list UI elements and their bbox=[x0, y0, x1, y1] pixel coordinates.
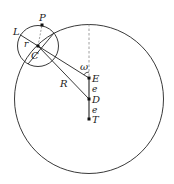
point-D bbox=[88, 98, 91, 101]
label-T: T bbox=[92, 114, 100, 125]
line-CD bbox=[38, 46, 89, 99]
point-T bbox=[88, 118, 91, 121]
label-e-ED: e bbox=[92, 84, 97, 94]
point-C bbox=[37, 45, 40, 48]
label-L: L bbox=[12, 26, 20, 37]
diagram-canvas: P L r C ω E R e D e T bbox=[0, 0, 174, 184]
label-C: C bbox=[31, 50, 39, 61]
label-R: R bbox=[59, 78, 68, 89]
angle-arc-omega bbox=[84, 72, 89, 75]
point-E bbox=[88, 77, 91, 80]
label-D: D bbox=[91, 94, 100, 105]
label-E: E bbox=[91, 73, 100, 84]
epicycle-diagram: P L r C ω E R e D e T bbox=[0, 0, 174, 184]
point-P bbox=[41, 24, 44, 27]
label-r: r bbox=[24, 39, 29, 49]
label-omega: ω bbox=[80, 61, 88, 72]
label-P: P bbox=[38, 12, 46, 23]
